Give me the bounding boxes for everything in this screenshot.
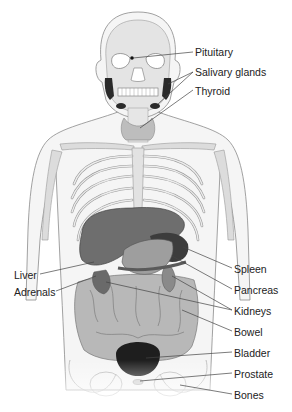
label-bowel: Bowel xyxy=(234,326,263,338)
label-kidneys: Kidneys xyxy=(234,305,271,317)
label-bones: Bones xyxy=(234,389,264,401)
label-bladder: Bladder xyxy=(234,347,270,359)
label-prostate: Prostate xyxy=(234,368,273,380)
label-spleen: Spleen xyxy=(234,263,267,275)
label-salivary-glands: Salivary glands xyxy=(195,66,266,78)
label-thyroid: Thyroid xyxy=(195,85,230,97)
label-adrenals: Adrenals xyxy=(14,286,55,298)
label-liver: Liver xyxy=(14,269,37,281)
head xyxy=(96,12,180,118)
label-pituitary: Pituitary xyxy=(195,46,233,58)
label-pancreas: Pancreas xyxy=(234,284,278,296)
